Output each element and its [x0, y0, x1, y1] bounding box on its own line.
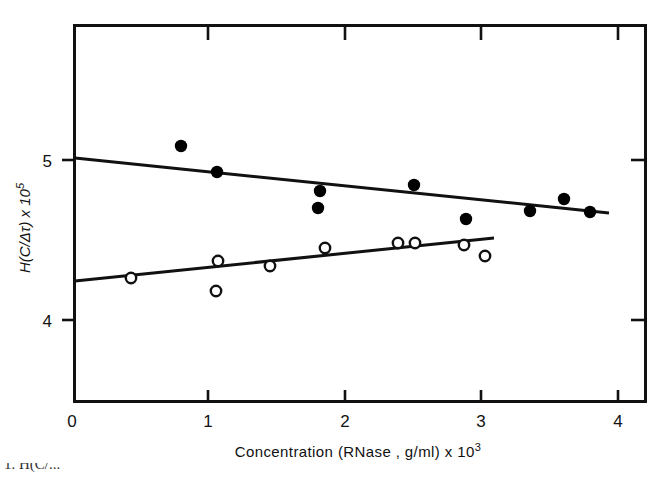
- data-point-filled: [460, 213, 472, 225]
- x-tick-labels: 0 1 2 3 4: [67, 412, 622, 431]
- y-tick-label-4: 4: [43, 312, 52, 331]
- data-point-open: [211, 286, 221, 296]
- x-axis-title: Concentration (RNase , g/ml) x 103: [235, 441, 482, 460]
- x-axis-ticks: [208, 26, 618, 402]
- data-point-filled: [558, 193, 570, 205]
- data-points-filled: [175, 140, 596, 225]
- x-tick-label-3: 3: [476, 412, 485, 431]
- data-point-open: [126, 273, 136, 283]
- data-point-open: [393, 238, 403, 248]
- data-point-open: [213, 256, 223, 266]
- y-axis-ticks: [62, 160, 645, 320]
- x-tick-label-1: 1: [203, 412, 212, 431]
- figure-caption-fragment: 1. H(C/...: [0, 463, 664, 477]
- y-axis-title: H(C/Δτ) x 105: [14, 182, 33, 273]
- figure-container: 0 1 2 3 4 5 4 H(C/Δτ) x 105 Concentratio…: [0, 0, 664, 477]
- data-points-open: [126, 238, 490, 296]
- data-point-filled: [211, 166, 223, 178]
- x-tick-label-2: 2: [340, 412, 349, 431]
- plot-frame: [75, 26, 646, 402]
- figure-caption-text: 1. H(C/...: [4, 463, 664, 473]
- x-axis-title-exponent: 3: [475, 441, 482, 453]
- svg-text:Concentration (RNase , g/ml) x: Concentration (RNase , g/ml) x 103: [235, 441, 482, 460]
- y-tick-labels: 5 4: [43, 152, 52, 331]
- data-point-filled: [314, 185, 326, 197]
- data-point-filled: [524, 205, 536, 217]
- fit-line-open-series: [75, 238, 494, 281]
- axes-box: [75, 26, 646, 402]
- y-axis-title-exponent: 5: [14, 182, 26, 189]
- data-point-open: [480, 251, 490, 261]
- data-point-open: [265, 261, 275, 271]
- x-axis-title-main: Concentration (RNase , g/ml) x 10: [235, 443, 475, 460]
- scatter-plot: 0 1 2 3 4 5 4 H(C/Δτ) x 105 Concentratio…: [0, 0, 664, 477]
- y-axis-title-main: H(C/Δτ) x 10: [16, 188, 33, 273]
- regression-line-filled: [75, 158, 609, 213]
- data-point-open: [410, 238, 420, 248]
- fit-line-filled-series: [75, 158, 609, 213]
- data-point-filled: [175, 140, 187, 152]
- data-point-filled: [312, 202, 324, 214]
- data-point-filled: [408, 179, 420, 191]
- data-point-filled: [584, 206, 596, 218]
- data-point-open: [459, 240, 469, 250]
- svg-text:H(C/Δτ) x 105: H(C/Δτ) x 105: [14, 182, 33, 273]
- data-point-open: [320, 243, 330, 253]
- x-tick-label-0: 0: [67, 412, 76, 431]
- x-tick-label-4: 4: [613, 412, 622, 431]
- regression-line-open: [75, 238, 494, 281]
- y-tick-label-5: 5: [43, 152, 52, 171]
